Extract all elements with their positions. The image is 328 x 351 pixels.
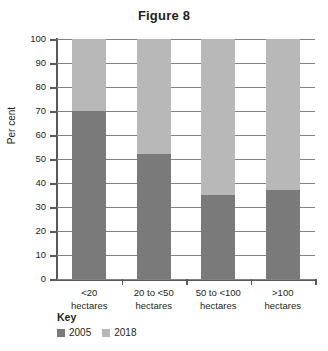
legend-items: 20052018 xyxy=(57,327,137,338)
bar-stack[interactable] xyxy=(201,39,235,279)
x-axis-category-label: <20hectares xyxy=(53,287,125,312)
y-axis-tick-label: 10 xyxy=(6,250,46,260)
y-axis-tick xyxy=(50,279,57,281)
x-axis-label-line: >100 xyxy=(247,287,319,300)
y-axis-tick xyxy=(50,255,57,257)
y-axis-tick-label: 60 xyxy=(6,130,46,140)
bar-segment-2005[interactable] xyxy=(137,154,171,279)
x-axis-category-label: 50 to <100hectares xyxy=(182,287,254,312)
legend-label: 2005 xyxy=(69,327,91,338)
bar-stack[interactable] xyxy=(266,39,300,279)
legend-title: Key xyxy=(57,311,137,323)
x-axis-label-line: 50 to <100 xyxy=(182,287,254,300)
y-axis-tick-label: 80 xyxy=(6,82,46,92)
bar-segment-2018[interactable] xyxy=(266,39,300,190)
y-axis-tick xyxy=(50,159,57,161)
x-axis-category-label: 20 to <50hectares xyxy=(118,287,190,312)
bar-segment-2005[interactable] xyxy=(72,111,106,279)
y-axis-tick-label: 50 xyxy=(6,154,46,164)
x-axis-tick xyxy=(186,279,188,285)
y-axis-tick xyxy=(50,207,57,209)
x-axis-label-line: hectares xyxy=(53,300,125,313)
y-axis-tick xyxy=(50,87,57,89)
y-axis-tick-label: 40 xyxy=(6,178,46,188)
bar-segment-2005[interactable] xyxy=(266,190,300,279)
chart-legend: Key 20052018 xyxy=(57,311,137,338)
y-axis-tick-label: 100 xyxy=(6,34,46,44)
x-axis-label-line: hectares xyxy=(247,300,319,313)
bar-stack[interactable] xyxy=(72,39,106,279)
y-axis-tick xyxy=(50,135,57,137)
x-axis-label-line: <20 xyxy=(53,287,125,300)
x-axis-label-line: hectares xyxy=(182,300,254,313)
y-axis-tick xyxy=(50,39,57,41)
plot-area xyxy=(57,39,315,279)
y-axis-tick-label: 30 xyxy=(6,202,46,212)
chart-title: Figure 8 xyxy=(0,8,328,23)
legend-swatch-icon xyxy=(102,329,110,337)
legend-item-2005[interactable]: 2005 xyxy=(57,327,91,338)
bar-segment-2005[interactable] xyxy=(201,195,235,279)
y-axis-tick-label: 0 xyxy=(6,274,46,284)
x-axis-tick xyxy=(122,279,124,285)
y-axis-tick xyxy=(50,183,57,185)
legend-label: 2018 xyxy=(114,327,136,338)
x-axis-label-line: 20 to <50 xyxy=(118,287,190,300)
x-axis-tick xyxy=(251,279,253,285)
y-axis-tick xyxy=(50,231,57,233)
bar-segment-2018[interactable] xyxy=(72,39,106,111)
y-axis-tick-label: 90 xyxy=(6,58,46,68)
figure-container: Figure 8 Per cent Key 20052018 010203040… xyxy=(0,0,328,351)
bar-stack[interactable] xyxy=(137,39,171,279)
y-axis-tick xyxy=(50,63,57,65)
legend-swatch-icon xyxy=(57,329,65,337)
y-axis-tick-label: 20 xyxy=(6,226,46,236)
x-axis-category-label: >100hectares xyxy=(247,287,319,312)
legend-item-2018[interactable]: 2018 xyxy=(102,327,136,338)
bar-segment-2018[interactable] xyxy=(137,39,171,154)
x-axis-label-line: hectares xyxy=(118,300,190,313)
y-axis-tick-label: 70 xyxy=(6,106,46,116)
y-axis-tick xyxy=(50,111,57,113)
x-axis-tick xyxy=(315,279,317,285)
bar-segment-2018[interactable] xyxy=(201,39,235,195)
